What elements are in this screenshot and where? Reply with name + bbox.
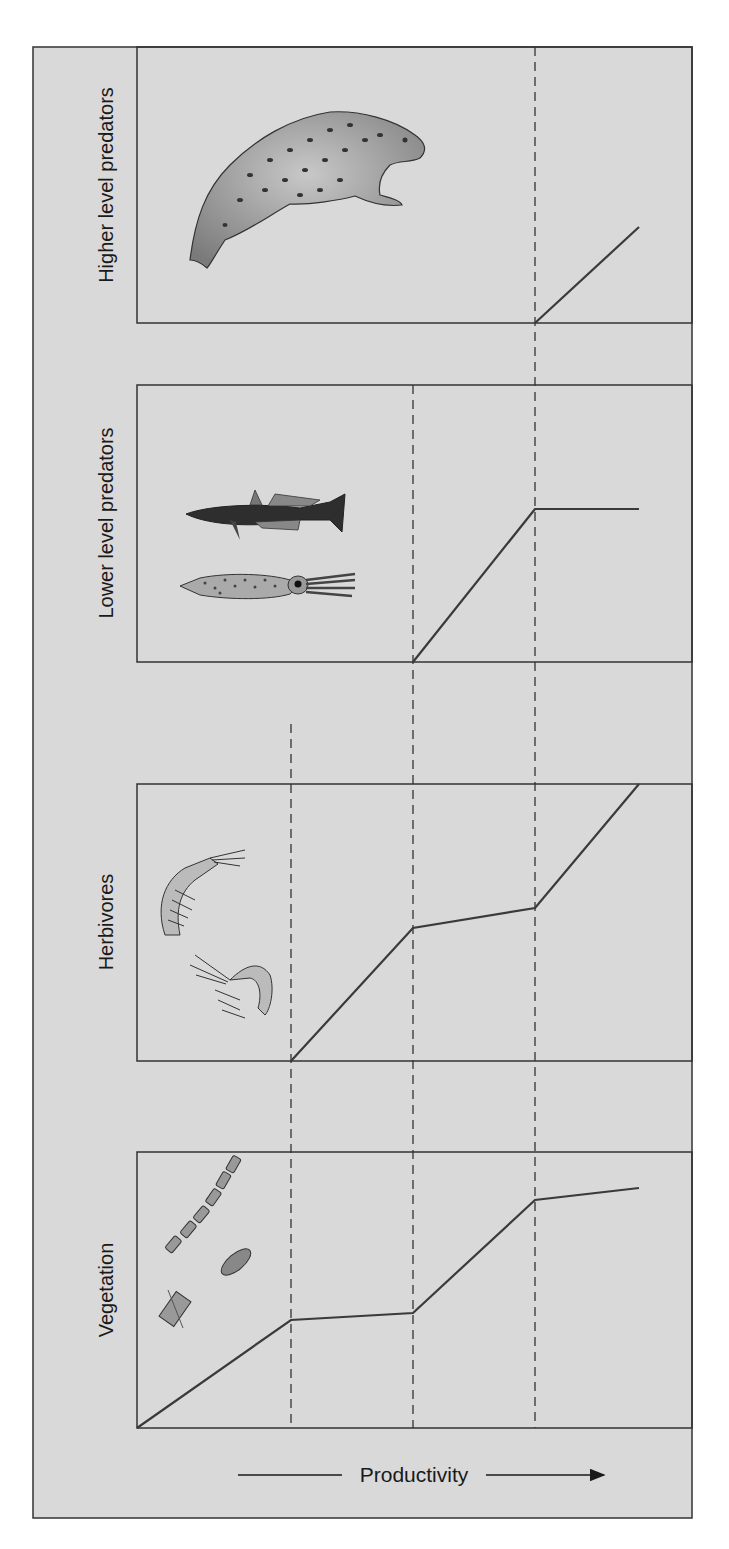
- figure-canvas: Higher level predators Lower level preda…: [0, 0, 729, 1549]
- panel-label: Herbivores: [95, 874, 117, 971]
- trophic-productivity-figure: Higher level predators Lower level preda…: [0, 0, 729, 1549]
- outer-frame: [33, 47, 692, 1518]
- panel-label: Higher level predators: [95, 87, 117, 283]
- x-axis-label: Productivity: [360, 1463, 469, 1486]
- panel-label: Lower level predators: [95, 427, 117, 618]
- panel-label: Vegetation: [95, 1243, 117, 1338]
